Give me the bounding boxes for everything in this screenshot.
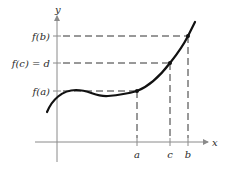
y-axis-label: y (54, 4, 61, 15)
label-f-a: f(a) (32, 86, 51, 97)
point-b (186, 34, 190, 38)
label-c: c (167, 149, 173, 160)
point-c (168, 61, 172, 65)
point-a (135, 89, 139, 93)
label-a: a (134, 149, 140, 160)
ivt-diagram: y x f(b) f(c) = d f(a) a c b (0, 0, 232, 169)
label-b: b (185, 149, 191, 160)
label-f-c: f(c) = d (11, 58, 50, 69)
x-axis-label: x (212, 137, 218, 148)
label-f-b: f(b) (31, 31, 50, 42)
